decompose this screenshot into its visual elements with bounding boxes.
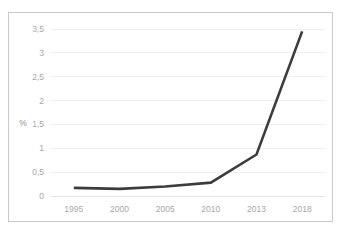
y-axis-tick-label: 0,5: [32, 167, 44, 177]
x-axis-tick-labels: 199520002005201020132018: [64, 204, 312, 214]
y-axis-tick-label: 0: [39, 191, 44, 201]
y-axis-tick-label: 2,5: [32, 72, 44, 82]
chart-figure: 00,511,522,533,5 19952000200520102013201…: [8, 12, 333, 222]
y-axis-tick-label: 2: [39, 96, 44, 106]
y-axis-tick-label: 1: [39, 143, 44, 153]
y-axis-tick-label: 3,5: [32, 24, 44, 34]
y-axis-title: %: [19, 118, 27, 128]
gridlines: [51, 29, 325, 196]
x-axis-tick-label: 2000: [110, 204, 129, 214]
y-axis-tick-labels: 00,511,522,533,5: [32, 24, 44, 201]
x-axis-tick-label: 2005: [156, 204, 175, 214]
x-axis-tick-label: 1995: [64, 204, 83, 214]
y-axis-tick-label: 3: [39, 48, 44, 58]
line-chart-plot: 00,511,522,533,5 19952000200520102013201…: [9, 13, 334, 223]
y-axis-tick-label: 1,5: [32, 119, 44, 129]
x-axis-tick-label: 2013: [247, 204, 266, 214]
data-series-line: [74, 31, 302, 188]
x-axis-tick-label: 2018: [293, 204, 312, 214]
x-axis-tick-label: 2010: [201, 204, 220, 214]
